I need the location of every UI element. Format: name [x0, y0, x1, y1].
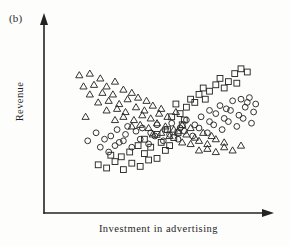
data-point-triangle-open: [97, 75, 104, 81]
data-point-circle-open: [240, 116, 246, 122]
data-series-layer: [76, 66, 259, 173]
data-point-square-open: [137, 164, 143, 170]
plot-canvas: [0, 0, 290, 246]
data-point-square-open: [217, 76, 223, 82]
data-point-circle-open: [213, 111, 219, 117]
data-point-circle-open: [207, 108, 213, 114]
data-point-circle-open: [108, 133, 114, 139]
data-point-square-open: [244, 69, 250, 75]
data-point-square-open: [154, 156, 160, 162]
data-point-triangle-open: [229, 147, 236, 153]
data-point-triangle-open: [147, 115, 154, 121]
data-point-circle-open: [226, 119, 232, 125]
data-point-triangle-open: [128, 89, 135, 95]
data-point-circle-open: [160, 138, 166, 144]
data-point-square-open: [184, 104, 190, 110]
data-point-circle-open: [175, 136, 181, 142]
data-point-triangle-open: [82, 113, 89, 119]
data-point-square-open: [234, 80, 240, 86]
data-point-square-open: [121, 167, 127, 173]
data-point-circle-open: [253, 101, 259, 107]
data-point-triangle-open: [130, 116, 137, 122]
data-point-circle-open: [123, 132, 129, 138]
data-point-triangle-open: [103, 107, 110, 113]
data-point-triangle-open: [212, 148, 219, 154]
data-point-square-open: [207, 88, 213, 94]
data-point-circle-open: [114, 127, 120, 133]
data-point-square-open: [142, 151, 148, 157]
data-point-circle-open: [196, 125, 202, 131]
data-point-circle-open: [154, 122, 160, 128]
data-point-circle-open: [247, 95, 253, 101]
data-point-triangle-open: [143, 97, 150, 103]
data-point-triangle-open: [187, 140, 194, 146]
data-point-circle-open: [137, 136, 143, 142]
y-axis-label: Revenue: [14, 67, 25, 137]
data-point-circle-open: [93, 130, 99, 136]
data-point-circle-open: [238, 96, 244, 102]
data-point-square-open: [146, 157, 152, 163]
data-point-square-open: [173, 101, 179, 107]
data-point-square-open: [196, 92, 202, 98]
data-point-triangle-open: [86, 70, 93, 76]
data-point-triangle-open: [103, 83, 110, 89]
data-point-circle-open: [85, 138, 91, 144]
data-point-circle-open: [230, 98, 236, 104]
data-point-circle-open: [163, 127, 169, 133]
data-point-square-open: [104, 165, 110, 171]
data-point-triangle-open: [86, 91, 93, 97]
scatter-plot-figure: (b) Revenue Investment in advertising: [0, 0, 290, 246]
data-point-triangle-open: [76, 72, 83, 78]
data-point-triangle-open: [111, 78, 118, 84]
data-point-triangle-open: [132, 104, 139, 110]
data-point-triangle-open: [195, 147, 202, 153]
data-point-square-open: [135, 143, 141, 149]
data-point-triangle-open: [111, 116, 118, 122]
data-point-triangle-open: [124, 96, 131, 102]
data-point-square-open: [129, 160, 135, 166]
data-point-circle-open: [112, 143, 118, 149]
data-point-triangle-open: [105, 97, 112, 103]
data-point-triangle-open: [237, 142, 244, 148]
data-point-square-open: [213, 82, 219, 88]
data-point-circle-open: [102, 136, 108, 142]
data-point-square-open: [226, 79, 232, 85]
data-point-triangle-open: [90, 81, 97, 87]
data-point-circle-open: [217, 103, 223, 109]
data-point-square-open: [202, 96, 208, 102]
data-point-triangle-open: [120, 86, 127, 92]
x-axis-arrowhead: [262, 209, 274, 217]
data-point-square-open: [238, 66, 244, 72]
data-point-triangle-open: [80, 83, 87, 89]
data-point-triangle-open: [99, 89, 106, 95]
data-point-circle-open: [169, 120, 175, 126]
y-axis-arrowhead: [40, 13, 48, 25]
data-point-square-open: [95, 162, 101, 168]
data-point-circle-open: [198, 114, 204, 120]
x-axis-label: Investment in advertising: [44, 223, 273, 234]
data-point-circle-open: [249, 120, 255, 126]
data-point-circle-open: [139, 125, 145, 131]
data-point-square-open: [118, 154, 124, 160]
data-point-square-open: [221, 85, 227, 91]
data-point-square-open: [200, 85, 206, 91]
data-point-square-open: [232, 71, 238, 77]
data-point-circle-open: [234, 124, 240, 130]
data-point-circle-open: [97, 144, 103, 150]
data-point-circle-open: [219, 127, 225, 133]
data-point-triangle-open: [109, 91, 116, 97]
data-point-circle-open: [251, 109, 257, 115]
data-point-circle-open: [211, 122, 217, 128]
data-point-square-open: [112, 159, 118, 165]
axes-group: [40, 13, 274, 217]
data-point-triangle-open: [95, 99, 102, 105]
